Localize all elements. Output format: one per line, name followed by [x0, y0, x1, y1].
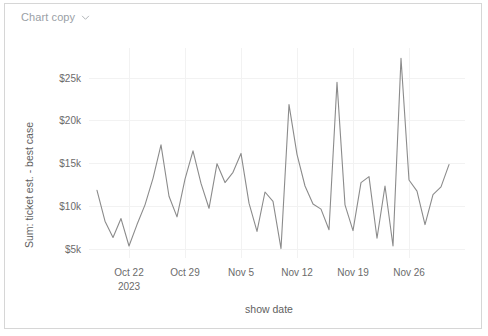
x-tick-label: Nov 5: [228, 267, 255, 278]
line-chart[interactable]: $5k$10k$15k$20k$25k Oct 222023Oct 29Nov …: [21, 30, 473, 324]
page-title: Chart copy: [21, 11, 75, 23]
x-tick-label-year: 2023: [118, 281, 141, 292]
y-tick-label: $20k: [59, 115, 82, 126]
x-tick-label: Nov 12: [281, 267, 313, 278]
y-tick-label: $25k: [59, 73, 82, 84]
x-tick-label: Nov 19: [337, 267, 369, 278]
x-axis-title: show date: [245, 303, 293, 315]
y-tick-label: $5k: [65, 244, 82, 255]
y-axis: $5k$10k$15k$20k$25k: [59, 73, 82, 255]
y-tick-label: $10k: [59, 201, 82, 212]
y-tick-label: $15k: [59, 158, 82, 169]
series-line: [97, 58, 449, 248]
chevron-down-icon[interactable]: [81, 13, 90, 22]
y-axis-title: Sum: ticket est. - best case: [23, 122, 35, 248]
x-axis: Oct 222023Oct 29Nov 5Nov 12Nov 19Nov 26: [114, 267, 425, 292]
x-tick-label: Oct 22: [114, 267, 144, 278]
card-header: Chart copy: [5, 4, 481, 30]
plot-area: $5k$10k$15k$20k$25k Oct 222023Oct 29Nov …: [21, 30, 471, 322]
x-tick-label: Oct 29: [170, 267, 200, 278]
chart-card: Chart copy $5k$10k$15k$20k$25k Oct 22202…: [4, 3, 482, 329]
x-tick-label: Nov 26: [393, 267, 425, 278]
